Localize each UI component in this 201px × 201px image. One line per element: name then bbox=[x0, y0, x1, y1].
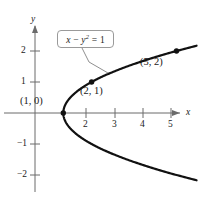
x-tick-label-5: 5 bbox=[168, 120, 173, 130]
point-marker-2-1 bbox=[89, 79, 94, 84]
x-axis-label: x bbox=[186, 108, 190, 118]
point-marker-5-2 bbox=[174, 48, 179, 53]
parabola-figure: x − y2 = 1 x y 2 3 4 5 2 1 −1 −2 (1, 0) … bbox=[0, 0, 201, 201]
x-tick-label-3: 3 bbox=[112, 120, 117, 130]
y-tick-label-neg1: −1 bbox=[17, 139, 27, 149]
equation-text: x − y2 = 1 bbox=[66, 33, 105, 45]
point-label-2-1: (2, 1) bbox=[80, 86, 103, 97]
equation-operator: − bbox=[71, 35, 82, 45]
y-tick-label-neg2: −2 bbox=[17, 170, 27, 180]
x-axis-arrowhead bbox=[172, 110, 180, 116]
point-marker-1-0 bbox=[61, 110, 66, 115]
equation-rhs: = 1 bbox=[89, 35, 105, 45]
x-tick-label-2: 2 bbox=[83, 120, 88, 130]
y-axis-label: y bbox=[31, 15, 35, 25]
y-tick-label-1: 1 bbox=[21, 77, 26, 87]
y-tick-label-2: 2 bbox=[21, 46, 26, 56]
x-tick-label-4: 4 bbox=[140, 120, 145, 130]
point-label-5-2: (5, 2) bbox=[140, 57, 163, 68]
callout-leader-line bbox=[82, 48, 108, 73]
point-label-1-0: (1, 0) bbox=[20, 96, 43, 107]
y-axis-arrowhead bbox=[32, 25, 38, 33]
equation-callout: x − y2 = 1 bbox=[57, 30, 114, 48]
